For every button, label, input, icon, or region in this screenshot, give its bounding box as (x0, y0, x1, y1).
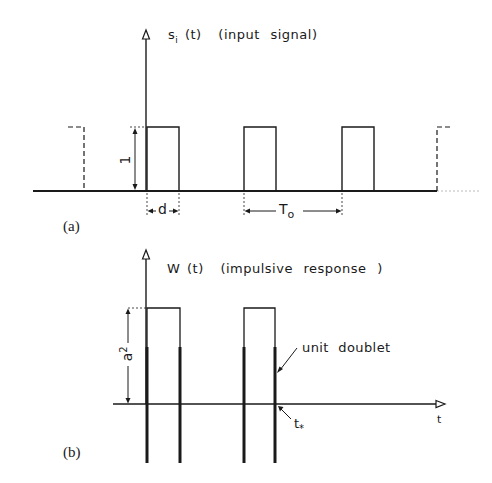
panel-b-x-axis-text: t (437, 413, 441, 426)
panel-a-pulse-2 (244, 127, 276, 191)
panel-b-tstar-pointer (281, 409, 291, 419)
panel-b-doublet-text: unit doublet (302, 340, 391, 355)
panel-b-x-axis-label: t (437, 413, 441, 426)
panel-a-d-arrow-right-icon (173, 209, 179, 214)
panel-a-amplitude-text: 1 (117, 156, 133, 165)
panel-b (113, 250, 445, 463)
panel-b-amplitude-label: a2 (118, 346, 136, 361)
panel-a-period-text: T (279, 201, 288, 217)
panel-a-period-arrow-left-icon (245, 209, 251, 214)
panel-a-title-arg: (t) (185, 27, 202, 42)
panel-a-width-label: d (158, 201, 167, 217)
panel-a-label: (a) (63, 218, 80, 235)
panel-a-period-label: To (279, 201, 294, 221)
panel-b-amp-arrow-down-icon (126, 398, 131, 404)
panel-a-pulse-3 (342, 127, 374, 191)
panel-b-title: W (t) (impulsive response ) (167, 261, 383, 276)
diagram-svg (0, 0, 492, 483)
panel-a-title-desc: (input signal) (218, 27, 317, 42)
panel-b-label-text: (b) (63, 444, 81, 460)
panel-a-width-text: d (158, 201, 167, 217)
panel-b-x-axis-arrow-icon (436, 401, 445, 408)
panel-b-amplitude-text: a (119, 353, 135, 362)
panel-b-pulse-2 (244, 308, 275, 404)
panel-a-amp-arrow-up-icon (133, 128, 138, 134)
panel-b-tstar-label: t* (294, 416, 304, 434)
panel-a-dashed-pulse-left (68, 127, 84, 191)
panel-a-title-sub: i (175, 35, 178, 45)
panel-b-doublet-pointer (280, 348, 297, 370)
panel-b-amp-arrow-up-icon (126, 309, 131, 315)
panel-a-y-axis-arrow-icon (143, 30, 150, 39)
panel-a (33, 30, 480, 216)
panel-b-amplitude-sup: 2 (118, 346, 129, 352)
panel-b-pulse-1 (147, 308, 180, 404)
panel-b-title-desc: (impulsive response ) (220, 261, 382, 276)
panel-a-title: si (t) (input signal) (168, 27, 318, 45)
panel-b-y-axis-arrow-icon (143, 250, 150, 259)
panel-a-period-sub: o (288, 208, 295, 221)
panel-b-doublet-label: unit doublet (302, 340, 391, 355)
diagram-figure: si (t) (input signal) 1 d To (a) W (t) (… (0, 0, 492, 483)
panel-a-amp-arrow-down-icon (133, 184, 138, 190)
panel-a-dashed-pulse-right (437, 127, 452, 191)
panel-a-d-arrow-left-icon (148, 209, 154, 214)
panel-b-title-func: W (t) (167, 261, 204, 276)
panel-a-pulse-1 (147, 127, 179, 191)
panel-a-label-text: (a) (63, 218, 80, 234)
panel-b-label: (b) (63, 444, 81, 461)
panel-b-tstar-sub: * (299, 423, 304, 434)
panel-a-period-arrow-right-icon (336, 209, 342, 214)
panel-a-amplitude-label: 1 (117, 156, 133, 165)
